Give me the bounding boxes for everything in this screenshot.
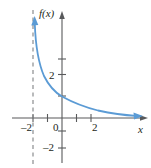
- y-axis-tick-label-2: 2: [49, 70, 55, 81]
- x-axis-tick-label-neg2: –2: [21, 122, 32, 133]
- plot-canvas: [0, 0, 151, 168]
- x-axis-label: x: [138, 124, 143, 135]
- origin-label: 0: [53, 122, 59, 133]
- y-axis-arrow-icon: [59, 11, 65, 19]
- curve-up-arrow-icon: [31, 16, 38, 26]
- y-axis-tick-label-neg2: –2: [43, 142, 54, 153]
- function-graph-figure: –2 0 2 2 –2 x f(x): [0, 0, 151, 168]
- x-axis-tick-label-2: 2: [92, 122, 98, 133]
- function-label: f(x): [39, 8, 54, 19]
